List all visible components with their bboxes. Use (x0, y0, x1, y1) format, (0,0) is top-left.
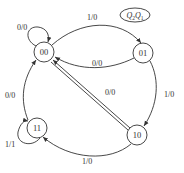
label-01-10: 1/0 (164, 90, 174, 99)
legend: Q2Q1 (120, 8, 150, 22)
legend-label: Q2Q1 (126, 11, 143, 21)
state-11: 11 (27, 118, 47, 138)
state-label-00: 00 (40, 47, 49, 57)
transition-10-00-double (51, 62, 128, 130)
transition-10-11 (43, 137, 131, 156)
state-10: 10 (127, 125, 147, 145)
transition-01-10 (144, 61, 156, 126)
label-10-00: 0/0 (105, 88, 115, 97)
state-label-10: 10 (133, 130, 142, 140)
transition-11-00 (23, 60, 36, 120)
state-00: 00 (34, 42, 54, 62)
label-01-00: 0/0 (92, 59, 102, 68)
state-label-01: 01 (139, 48, 148, 58)
label-11-11: 1/1 (5, 140, 15, 149)
transition-00-01 (52, 25, 141, 45)
state-01: 01 (133, 43, 153, 63)
label-00-01: 1/0 (87, 13, 97, 22)
label-00-00: 0/0 (17, 23, 27, 32)
label-11-00: 0/0 (5, 91, 15, 100)
label-10-11: 1/0 (82, 157, 92, 166)
state-label-11: 11 (33, 123, 41, 133)
transition-10-00 (53, 60, 130, 128)
state-diagram: Q2Q1 0/0 1/0 0/0 1/0 0/0 1/0 1/1 0/0 00 … (0, 0, 184, 173)
